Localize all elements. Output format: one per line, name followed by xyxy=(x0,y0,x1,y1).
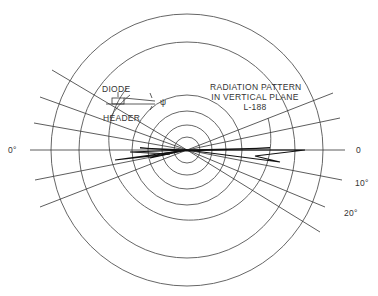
angle-label-ten: 10° xyxy=(355,178,369,188)
title-line-3: L-188 xyxy=(210,102,300,112)
radiation-pattern-diagram xyxy=(0,0,378,296)
diagram-title: RADIATION PATTERN IN VERTICAL PLANE L-18… xyxy=(210,82,300,112)
title-line-1: RADIATION PATTERN xyxy=(210,82,300,92)
angle-label-twenty: 20° xyxy=(344,208,358,218)
header-label: HEADER xyxy=(103,113,140,123)
angle-label-left-zero: 0° xyxy=(8,145,17,155)
title-line-2: IN VERTICAL PLANE xyxy=(210,92,300,102)
angle-label-right-zero: 0 xyxy=(356,145,361,155)
diode-label: DIODE xyxy=(102,84,130,94)
psi-symbol: ψ xyxy=(160,97,166,107)
diode-inset xyxy=(106,92,155,110)
